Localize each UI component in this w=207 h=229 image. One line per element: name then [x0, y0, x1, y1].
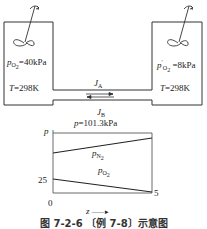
figure-caption: 图 7-2-6 〔例 7-8〕示意图 — [40, 215, 168, 229]
o2-start-value: 25 — [38, 175, 47, 185]
o2-end-value: 5 — [154, 188, 159, 198]
origin-label: 0 — [48, 198, 53, 208]
stirrer-icon-right — [168, 6, 193, 46]
stirrer-icon-left — [14, 6, 39, 46]
n2-curve-label: pN2 — [92, 148, 104, 163]
left-temperature-label: T=298K — [9, 83, 39, 93]
flux-a-label: JA — [94, 78, 102, 91]
right-o2-pressure-label: p′O2 =8kPa — [157, 57, 195, 75]
total-pressure-label: p=101.3kPa — [74, 118, 117, 128]
right-temperature-label: T=298K — [160, 83, 190, 93]
o2-line — [53, 179, 152, 192]
y-axis-label: p — [44, 126, 49, 136]
diffusion-arrows — [86, 93, 114, 99]
o2-curve-label: pO2 — [98, 165, 110, 180]
left-o2-pressure-label: pO2=40kPa — [7, 57, 46, 72]
